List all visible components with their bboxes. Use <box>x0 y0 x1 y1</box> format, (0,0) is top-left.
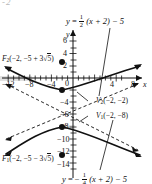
hyperbola-figure: -2 <box>0 0 152 184</box>
equation-bottom-denominator: 4 <box>82 179 87 184</box>
leader-line-top-equation <box>99 28 110 96</box>
equation-top-lhs: y <box>66 16 70 26</box>
label-focus-lower: F1(−2, −5 − 3√5) <box>2 155 54 164</box>
equation-top-denominator: 2 <box>79 21 84 29</box>
y-tick-2: 2 <box>63 62 67 70</box>
y-axis <box>70 30 77 178</box>
x-tick-8: 8 <box>131 81 135 89</box>
label-focus-upper-open: (−2, −5 + 3 <box>9 54 43 63</box>
y-tick-neg8: −8 <box>60 123 69 131</box>
label-vertex-upper-coords: (−2, −2) <box>103 96 128 105</box>
y-tick-neg12: −12 <box>57 148 70 156</box>
leader-line-vertex-lower <box>79 116 88 122</box>
y-tick-neg6: −6 <box>60 111 69 119</box>
equation-top-rest: (x + 2) − 5 <box>86 16 124 26</box>
equation-bottom-lhs: y <box>62 174 66 184</box>
equation-bottom-numerator: 1 <box>82 172 87 179</box>
equation-top-numerator: 1 <box>79 14 84 21</box>
label-focus-upper-close: ) <box>51 54 54 63</box>
equation-top-fraction: 1 2 <box>79 14 84 28</box>
y-tick-neg10: −10 <box>57 136 70 144</box>
equation-bottom-equals: = − <box>68 174 80 184</box>
y-tick-neg4: −4 <box>60 99 69 107</box>
equation-asymptote-bottom: y = − 1 4 (x + 2) − 5 <box>62 172 127 184</box>
label-vertex-lower-coords: (−2, −8) <box>103 111 128 120</box>
equation-asymptote-top: y = 1 2 (x + 2) − 5 <box>66 14 124 28</box>
y-tick-4: 4 <box>63 50 67 58</box>
equation-top-equals: = <box>72 16 77 26</box>
label-focus-lower-open: (−2, −5 − 3 <box>9 154 43 163</box>
leader-line-vertex-upper <box>77 92 88 101</box>
label-focus-lower-close: ) <box>51 154 54 163</box>
x-tick-4: 4 <box>110 81 114 89</box>
label-vertex-upper: V2(−2, −2) <box>96 97 128 106</box>
leader-line-bottom-equation <box>100 120 113 170</box>
origin-label: 0 <box>65 80 69 88</box>
x-tick-neg4: −4 <box>47 81 56 89</box>
x-axis-label: x <box>143 81 147 89</box>
x-tick-neg8: −8 <box>25 81 34 89</box>
y-tick-6: 6 <box>63 37 67 45</box>
label-focus-upper: F2(−2, −5 + 3√5) <box>2 55 54 64</box>
x-tick-neg12: −12 <box>2 81 15 89</box>
label-vertex-lower: V1(−2, −8) <box>96 112 128 121</box>
equation-bottom-fraction: 1 4 <box>82 172 87 184</box>
y-tick-neg14: −14 <box>57 161 70 169</box>
equation-bottom-rest: (x + 2) − 5 <box>89 174 127 184</box>
